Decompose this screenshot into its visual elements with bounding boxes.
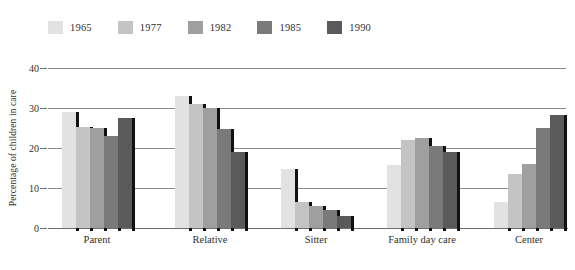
legend-swatch-1985 [257,21,272,34]
legend-swatch-1965 [48,21,63,34]
y-tick-mark-20 [40,148,47,149]
bar-fill [387,165,401,228]
bar-shadow [457,152,460,231]
bar-group-center [494,68,564,228]
bar-center-1985 [536,128,550,228]
bar-shadow [351,216,354,231]
legend-label-1977: 1977 [140,22,162,33]
legend-swatch-1990 [327,21,342,34]
legend-label-1982: 1982 [210,22,232,33]
bar-fill [550,115,564,228]
bar-fill [90,128,104,228]
bar-family-day-care-1990 [443,152,457,228]
y-tick-mark-40 [40,68,47,69]
legend-item-1985: 1985 [257,21,301,34]
bar-fill [536,128,550,228]
x-category-label-family-day-care: Family day care [388,234,456,245]
bar-sitter-1982 [309,206,323,228]
legend-swatch-1982 [188,21,203,34]
legend-label-1965: 1965 [70,22,92,33]
bar-fill [443,152,457,228]
bar-relative-1977 [189,104,203,228]
y-tick-label-30: 30 [29,103,39,114]
bar-chart: 19651977198219851990 Percentage of child… [0,0,575,270]
bar-family-day-care-1982 [415,138,429,228]
bar-parent-1990 [118,118,132,228]
bar-shadow [132,118,135,231]
bar-fill [337,216,351,228]
bar-shadow [245,152,248,231]
legend-item-1977: 1977 [118,21,162,34]
bar-fill [522,164,536,228]
legend-label-1985: 1985 [279,22,301,33]
bar-sitter-1985 [323,210,337,228]
bar-center-1965 [494,202,508,228]
bar-fill [203,108,217,228]
bar-family-day-care-1977 [401,140,415,228]
x-category-label-relative: Relative [193,234,228,245]
bar-relative-1965 [175,96,189,228]
bar-group-relative [175,68,245,228]
legend-item-1990: 1990 [327,21,371,34]
bar-parent-1985 [104,136,118,228]
bar-fill [62,112,76,228]
bar-fill [401,140,415,228]
bar-parent-1982 [90,128,104,228]
bar-center-1977 [508,174,522,228]
y-axis-title: Percentage of children in care [8,68,22,228]
bar-fill [189,104,203,228]
bar-shadow [564,115,567,231]
bar-fill [295,202,309,228]
bar-fill [429,146,443,228]
plot-area: 010203040 [48,68,566,228]
bar-fill [415,138,429,228]
bar-fill [175,96,189,228]
bar-fill [494,202,508,228]
bar-fill [323,210,337,228]
bar-group-family-day-care [387,68,457,228]
bar-fill [217,129,231,228]
bar-relative-1982 [203,108,217,228]
y-tick-label-0: 0 [34,223,39,234]
bar-fill [104,136,118,228]
bar-family-day-care-1985 [429,146,443,228]
x-category-label-sitter: Sitter [305,234,328,245]
x-category-label-center: Center [515,234,543,245]
y-tick-mark-0 [40,228,47,229]
legend-item-1965: 1965 [48,21,92,34]
bar-family-day-care-1965 [387,165,401,228]
bar-parent-1965 [62,112,76,228]
legend-swatch-1977 [118,21,133,34]
bar-sitter-1977 [295,202,309,228]
chart-legend: 19651977198219851990 [48,20,397,34]
bar-group-parent [62,68,132,228]
x-axis-line [48,228,568,229]
y-tick-label-40: 40 [29,63,39,74]
bar-fill [508,174,522,228]
bar-sitter-1965 [281,169,295,228]
legend-item-1982: 1982 [188,21,232,34]
bar-fill [118,118,132,228]
y-tick-label-10: 10 [29,183,39,194]
y-tick-label-20: 20 [29,143,39,154]
y-tick-mark-10 [40,188,47,189]
bar-relative-1985 [217,129,231,228]
x-category-label-parent: Parent [84,234,111,245]
bar-group-sitter [281,68,351,228]
bar-fill [76,127,90,228]
bar-sitter-1990 [337,216,351,228]
bar-parent-1977 [76,127,90,228]
bar-fill [231,152,245,228]
bar-fill [281,169,295,228]
legend-label-1990: 1990 [349,22,371,33]
bar-relative-1990 [231,152,245,228]
y-tick-mark-30 [40,108,47,109]
bar-center-1982 [522,164,536,228]
bar-fill [309,206,323,228]
bar-center-1990 [550,115,564,228]
